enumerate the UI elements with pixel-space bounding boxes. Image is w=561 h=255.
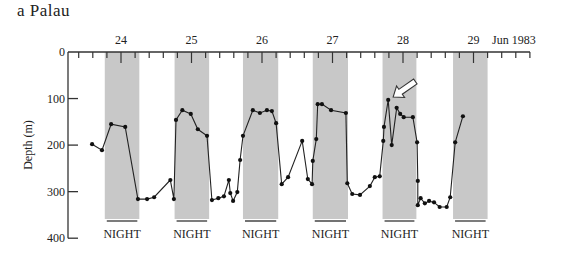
data-point xyxy=(123,125,127,129)
data-point xyxy=(310,182,314,186)
night-bands: NIGHTNIGHTNIGHTNIGHTNIGHTNIGHT xyxy=(103,52,489,241)
data-point xyxy=(427,199,431,203)
y-tick-label: 400 xyxy=(47,231,65,245)
data-point xyxy=(381,139,385,143)
data-point xyxy=(415,140,419,144)
night-band xyxy=(175,52,210,219)
data-point xyxy=(274,121,278,125)
data-point xyxy=(227,178,231,182)
data-point xyxy=(136,197,140,201)
data-point xyxy=(416,179,420,183)
depth-chart: NIGHTNIGHTNIGHTNIGHTNIGHTNIGHT 010020030… xyxy=(0,0,561,255)
data-point xyxy=(196,127,200,131)
data-point xyxy=(216,196,220,200)
data-point xyxy=(395,106,399,110)
night-label: NIGHT xyxy=(452,227,490,241)
data-point xyxy=(251,108,255,112)
data-point xyxy=(438,205,442,209)
night-label: NIGHT xyxy=(242,227,280,241)
data-point xyxy=(306,177,310,181)
data-point xyxy=(316,102,320,106)
night-label: NIGHT xyxy=(312,227,350,241)
data-point xyxy=(174,118,178,122)
data-point xyxy=(235,190,239,194)
data-point xyxy=(172,197,176,201)
data-point xyxy=(152,195,156,199)
data-point xyxy=(416,203,420,207)
data-point xyxy=(145,197,149,201)
data-point xyxy=(453,140,457,144)
night-band xyxy=(105,52,140,219)
night-band xyxy=(453,52,488,219)
x-unit-label: Jun 1983 xyxy=(492,33,536,47)
x-tick-label: 26 xyxy=(256,33,268,47)
data-point xyxy=(411,115,415,119)
data-point xyxy=(350,192,354,196)
y-tick-label: 300 xyxy=(47,185,65,199)
data-point xyxy=(402,115,406,119)
data-point xyxy=(382,125,386,129)
data-point xyxy=(373,175,377,179)
data-point xyxy=(241,134,245,138)
data-point xyxy=(100,148,104,152)
data-point xyxy=(238,158,242,162)
data-point xyxy=(461,114,465,118)
night-band xyxy=(383,52,417,219)
x-tick-label: 25 xyxy=(186,33,198,47)
data-point xyxy=(258,111,262,115)
y-tick-label: 0 xyxy=(59,45,65,59)
night-label: NIGHT xyxy=(381,227,419,241)
data-point xyxy=(210,198,214,202)
x-tick-label: 24 xyxy=(115,33,127,47)
data-point xyxy=(270,109,274,113)
data-point xyxy=(90,142,94,146)
data-point xyxy=(228,191,232,195)
data-point xyxy=(314,137,318,141)
night-band xyxy=(313,52,348,219)
data-point xyxy=(368,184,372,188)
y-tick-label: 200 xyxy=(47,138,65,152)
data-point xyxy=(180,108,184,112)
x-tick-label: 29 xyxy=(468,33,480,47)
x-tick-label: 27 xyxy=(327,33,339,47)
night-label: NIGHT xyxy=(173,227,211,241)
data-point xyxy=(222,194,226,198)
data-point xyxy=(300,139,304,143)
data-point xyxy=(423,201,427,205)
data-point xyxy=(432,200,436,204)
data-point xyxy=(265,108,269,112)
data-point xyxy=(231,199,235,203)
data-point xyxy=(390,143,394,147)
data-point xyxy=(286,175,290,179)
data-point xyxy=(345,181,349,185)
data-point xyxy=(189,112,193,116)
night-band xyxy=(243,52,278,219)
data-point xyxy=(280,182,284,186)
data-point xyxy=(386,98,390,102)
data-point xyxy=(109,122,113,126)
x-tick-label: 28 xyxy=(397,33,409,47)
data-point xyxy=(205,134,209,138)
data-point xyxy=(344,111,348,115)
data-point xyxy=(398,112,402,116)
data-point xyxy=(168,178,172,182)
data-point xyxy=(378,174,382,178)
data-point xyxy=(311,159,315,163)
y-axis-title: Depth (m) xyxy=(21,120,35,170)
data-point xyxy=(320,102,324,106)
data-point xyxy=(445,205,449,209)
night-label: NIGHT xyxy=(103,227,141,241)
y-tick-label: 100 xyxy=(47,92,65,106)
data-point xyxy=(419,196,423,200)
data-point xyxy=(448,195,452,199)
data-point xyxy=(358,193,362,197)
data-point xyxy=(329,108,333,112)
